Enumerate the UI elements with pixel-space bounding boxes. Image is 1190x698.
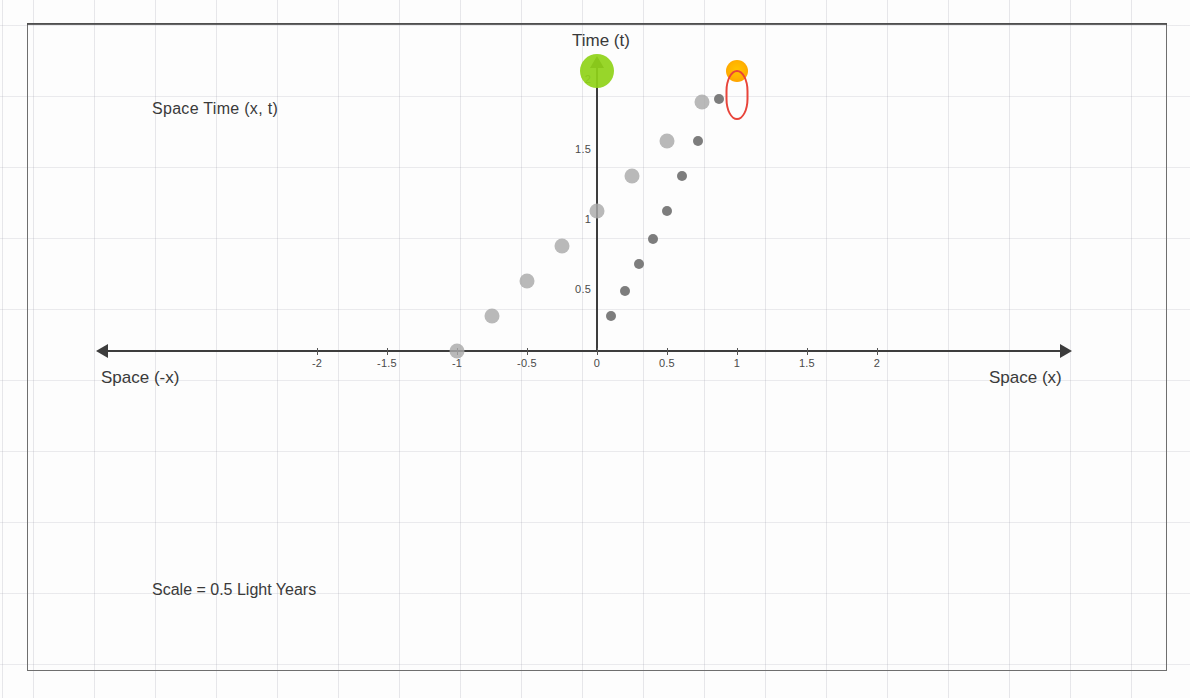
data-point xyxy=(620,286,630,296)
page-background: -2-1.5-1-0.500.511.520.511.52 Time (t) S… xyxy=(0,0,1190,698)
data-point xyxy=(695,94,710,109)
x-axis-tick-label: -2 xyxy=(312,357,322,369)
x-axis-tick xyxy=(527,348,528,355)
data-point xyxy=(714,94,724,104)
scale-annotation: Scale = 0.5 Light Years xyxy=(152,581,316,599)
data-point xyxy=(590,204,605,219)
data-point xyxy=(450,344,465,359)
data-point xyxy=(606,311,616,321)
x-axis-arrow-left-icon xyxy=(96,344,108,358)
y-axis-tick-label: 1.5 xyxy=(561,143,591,155)
data-point xyxy=(693,136,703,146)
data-point xyxy=(648,234,658,244)
data-point xyxy=(555,239,570,254)
x-axis-tick-label: 1.5 xyxy=(799,357,815,369)
x-axis-arrow-right-icon xyxy=(1060,344,1072,358)
x-axis-tick xyxy=(387,348,388,355)
x-axis-tick xyxy=(317,348,318,355)
data-point xyxy=(634,259,644,269)
x-axis-tick-label: 2 xyxy=(874,357,880,369)
y-axis-tick-label: 0.5 xyxy=(561,283,591,295)
spacetime-plot: -2-1.5-1-0.500.511.520.511.52 Time (t) S… xyxy=(0,0,1190,698)
y-axis-tick-label: 1 xyxy=(561,213,591,225)
x-axis-positive-title: Space (x) xyxy=(989,368,1062,388)
data-point xyxy=(662,206,672,216)
x-axis-tick-label: 0 xyxy=(594,357,600,369)
x-axis-line xyxy=(100,350,1068,352)
x-axis-tick-label: -1.5 xyxy=(377,357,397,369)
green-event-marker[interactable] xyxy=(580,54,614,88)
x-axis-tick xyxy=(597,348,598,355)
red-ellipse-highlight-icon xyxy=(726,70,749,120)
x-axis-tick xyxy=(737,348,738,355)
x-axis-tick-label: 0.5 xyxy=(659,357,675,369)
x-axis-tick-label: 1 xyxy=(734,357,740,369)
data-point xyxy=(677,171,687,181)
x-axis-tick-label: -1 xyxy=(452,357,462,369)
data-point xyxy=(625,169,640,184)
x-axis-tick-label: -0.5 xyxy=(517,357,537,369)
x-axis-tick xyxy=(807,348,808,355)
x-axis-tick xyxy=(877,348,878,355)
data-point xyxy=(660,134,675,149)
data-point xyxy=(485,309,500,324)
spacetime-annotation: Space Time (x, t) xyxy=(152,100,278,118)
x-axis-negative-title: Space (-x) xyxy=(101,368,179,388)
y-axis-title: Time (t) xyxy=(572,31,630,51)
data-point xyxy=(520,274,535,289)
x-axis-tick xyxy=(667,348,668,355)
